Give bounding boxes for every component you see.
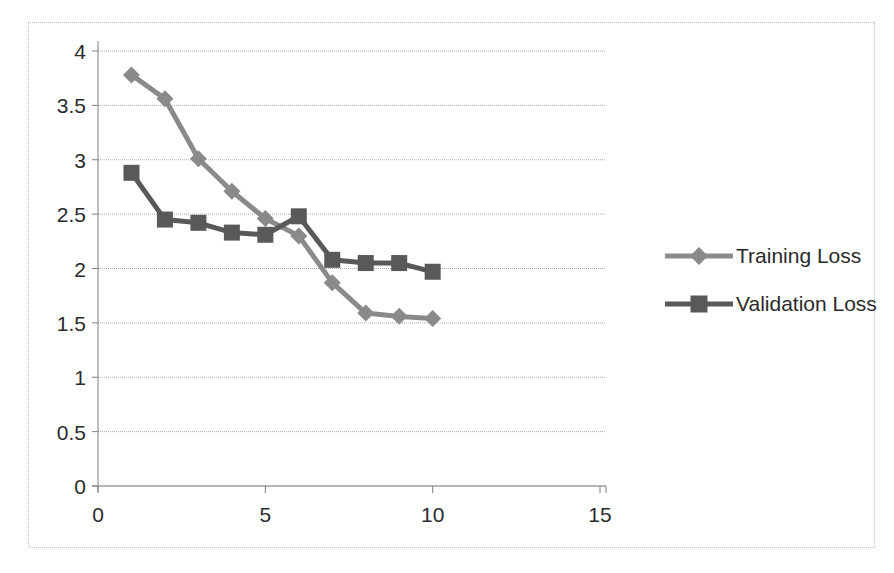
x-axis-label: 10 bbox=[403, 504, 463, 525]
data-point-marker bbox=[391, 308, 408, 325]
data-point-marker bbox=[157, 212, 173, 228]
data-point-marker bbox=[123, 165, 139, 181]
y-axis-label: 2 bbox=[20, 259, 86, 280]
chart-plot-area bbox=[0, 0, 894, 573]
y-axis-label: 0 bbox=[20, 476, 86, 497]
series-line bbox=[132, 173, 433, 272]
y-axis-label: 2.5 bbox=[20, 204, 86, 225]
legend-item-training-loss[interactable]: Training Loss bbox=[736, 245, 861, 266]
x-axis-label: 5 bbox=[235, 504, 295, 525]
legend-marker-training-loss bbox=[665, 247, 733, 265]
data-point-marker bbox=[391, 255, 407, 271]
y-axis-label: 3 bbox=[20, 150, 86, 171]
legend-item-validation-loss[interactable]: Validation Loss bbox=[736, 293, 877, 314]
legend-square-icon bbox=[691, 296, 708, 313]
chart-container: 00.511.522.533.54 051015 Training Loss V… bbox=[0, 0, 894, 573]
legend-markers-group bbox=[665, 247, 733, 313]
data-point-marker bbox=[190, 215, 206, 231]
y-axis-label: 1.5 bbox=[20, 313, 86, 334]
data-point-marker bbox=[324, 252, 340, 268]
data-point-marker bbox=[358, 255, 374, 271]
data-point-marker bbox=[224, 225, 240, 241]
x-axis-label: 15 bbox=[570, 504, 630, 525]
data-point-marker bbox=[424, 310, 441, 327]
series-line bbox=[132, 75, 433, 319]
y-axis-label: 1 bbox=[20, 367, 86, 388]
data-point-marker bbox=[425, 264, 441, 280]
x-axis-label: 0 bbox=[68, 504, 128, 525]
y-axis-label: 3.5 bbox=[20, 95, 86, 116]
y-axis-label: 0.5 bbox=[20, 422, 86, 443]
legend-marker-validation-loss bbox=[665, 296, 733, 313]
series-validation-loss bbox=[123, 165, 440, 280]
data-point-marker bbox=[291, 208, 307, 224]
legend-diamond-icon bbox=[690, 247, 708, 265]
data-point-marker bbox=[257, 227, 273, 243]
y-axis-label: 4 bbox=[20, 41, 86, 62]
